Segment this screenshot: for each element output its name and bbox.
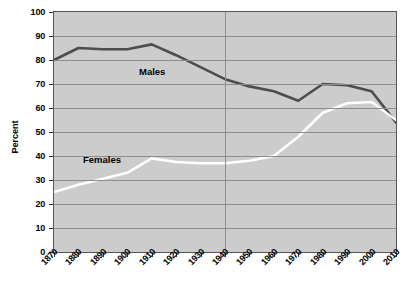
- y-axis-tick-label: 20: [35, 199, 45, 209]
- y-axis-tick-label: 40: [35, 151, 45, 161]
- gridline-horizontal: [54, 36, 396, 37]
- y-axis: 0102030405060708090100: [0, 0, 53, 265]
- y-axis-tick-label: 100: [31, 7, 45, 17]
- x-axis: 1870188018901900191019201930194019501960…: [0, 253, 417, 290]
- gridline-horizontal: [54, 204, 396, 205]
- y-axis-tick-label: 90: [35, 31, 45, 41]
- y-axis-title: Percent: [10, 120, 20, 153]
- y-axis-tick-label: 60: [35, 103, 45, 113]
- series-label-females: Females: [83, 154, 121, 165]
- gridline-horizontal: [54, 60, 396, 61]
- y-axis-tick-label: 70: [35, 79, 45, 89]
- gridline-horizontal: [54, 228, 396, 229]
- plot-area: [53, 11, 397, 253]
- y-axis-tick-label: 80: [35, 55, 45, 65]
- y-axis-tick-label: 30: [35, 175, 45, 185]
- chart-container: 0102030405060708090100 Percent 187018801…: [0, 0, 417, 290]
- y-axis-tick-label: 50: [35, 127, 45, 137]
- gridline-horizontal: [54, 180, 396, 181]
- gridline-horizontal: [54, 132, 396, 133]
- series-label-males: Males: [139, 66, 165, 77]
- y-axis-tick-label: 10: [35, 223, 45, 233]
- gridline-horizontal: [54, 84, 396, 85]
- gridline-horizontal: [54, 108, 396, 109]
